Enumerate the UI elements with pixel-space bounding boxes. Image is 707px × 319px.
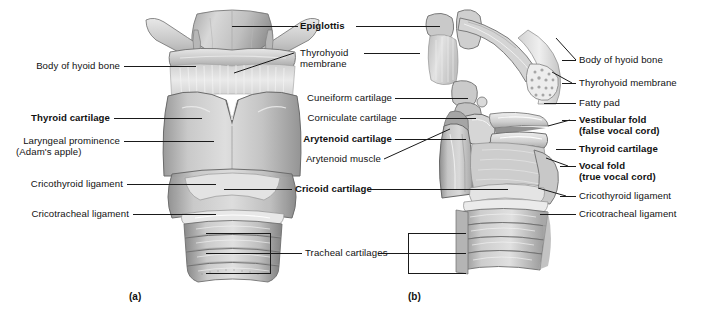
leader-thyrohyoid-membrane-b2 — [552, 72, 572, 83]
label-true-vocal-cord: (true vocal cord) — [579, 171, 656, 182]
label-thyrohyoid-line2: membrane — [300, 58, 347, 69]
leader-thyrohyoid-membrane-a — [234, 53, 294, 73]
label-vestibular-fold: Vestibular fold — [579, 114, 647, 125]
label-fatty-pad: Fatty pad — [579, 97, 620, 108]
leader-vocal-fold — [546, 158, 568, 166]
label-thyroid-cartilage-b: Thyroid cartilage — [579, 143, 658, 154]
label-thyrohyoid-line1: Thyrohyoid — [300, 47, 348, 58]
label-arytenoid-muscle: Arytenoid muscle — [288, 153, 381, 164]
leader-vestibular-fold — [548, 120, 570, 126]
panel-caption-b: (b) — [408, 291, 421, 302]
label-body-of-hyoid-bone-a: Body of hyoid bone — [0, 60, 120, 71]
label-cricotracheal-ligament-b: Cricotracheal ligament — [579, 208, 677, 219]
larynx-figure: Body of hyoid bone Thyroid cartilage Lar… — [0, 0, 707, 319]
label-cricothyroid-ligament-b: Cricothyroid ligament — [579, 190, 671, 201]
label-thyroid-cartilage-a: Thyroid cartilage — [0, 112, 110, 123]
label-cricothyroid-ligament-a: Cricothyroid ligament — [0, 178, 123, 189]
label-false-vocal-cord: (false vocal cord) — [579, 125, 660, 136]
label-body-of-hyoid-bone-b: Body of hyoid bone — [579, 54, 663, 65]
label-thyrohyoid-membrane-b: Thyrohyoid membrane — [579, 77, 677, 88]
label-vocal-fold: Vocal fold — [579, 160, 625, 171]
leader-body-of-hyoid-bone-b — [556, 38, 576, 60]
label-arytenoid-cartilage: Arytenoid cartilage — [288, 133, 392, 144]
label-cuneiform-cartilage: Cuneiform cartilage — [288, 92, 392, 103]
label-tracheal-cartilages: Tracheal cartilages — [305, 247, 388, 258]
leader-cricothyroid-ligament-b — [538, 188, 566, 196]
label-cricotracheal-ligament-a: Cricotracheal ligament — [0, 208, 129, 219]
label-epiglottis: Epiglottis — [300, 20, 345, 31]
panel-caption-a: (a) — [129, 291, 141, 302]
label-adams-apple: (Adam's apple) — [16, 146, 82, 157]
leader-arytenoid-muscle — [384, 129, 450, 159]
label-corniculate-cartilage: Corniculate cartilage — [288, 112, 397, 123]
label-cricoid-cartilage: Cricoid cartilage — [295, 183, 372, 194]
label-laryngeal-prominence: Laryngeal prominence — [0, 135, 120, 146]
